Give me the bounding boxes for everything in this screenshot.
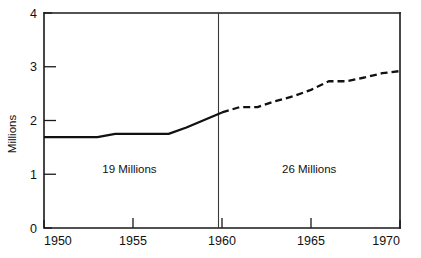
x-tick-label-1965: 1965 (297, 234, 325, 248)
x-tick-label-1960: 1960 (208, 234, 236, 248)
y-axis-title: Millions (6, 115, 18, 154)
x-tick-label-1970: 1970 (372, 234, 400, 248)
y-tick-label-0: 0 (30, 222, 37, 236)
y-tick-label-2: 2 (30, 114, 37, 128)
line-chart: 0 1 2 3 4 1950 1955 1960 1965 1970 Milli… (0, 0, 421, 258)
x-tick-label-1950: 1950 (44, 234, 72, 248)
plot-area-background (44, 13, 400, 228)
annotation-label-right: 26 Millions (282, 163, 337, 175)
y-tick-label-1: 1 (30, 168, 37, 182)
y-tick-label-3: 3 (30, 60, 37, 74)
chart-container: 0 1 2 3 4 1950 1955 1960 1965 1970 Milli… (0, 0, 421, 258)
x-tick-label-1955: 1955 (119, 234, 147, 248)
annotation-label-left: 19 Millions (102, 163, 157, 175)
y-tick-label-4: 4 (30, 7, 37, 21)
